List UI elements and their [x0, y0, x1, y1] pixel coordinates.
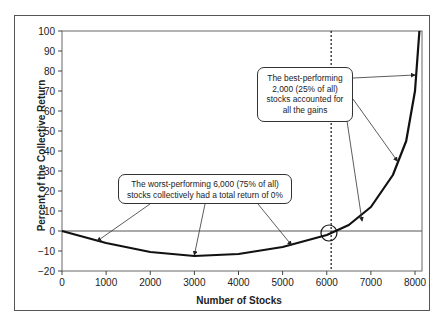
x-tick-label: 8000	[404, 277, 427, 288]
annotation-arrow	[97, 204, 150, 241]
x-tick-label: 5000	[272, 277, 295, 288]
line-chart: −20−100102030405060708090100010002000300…	[0, 0, 447, 329]
x-tick-label: 0	[59, 277, 65, 288]
x-tick-label: 2000	[139, 277, 162, 288]
callout-best-performers: The best-performing 2,000 (25% of all) s…	[257, 67, 353, 122]
callout-worst-performers: The worst-performing 6,000 (75% of all) …	[118, 174, 292, 204]
y-tick-label: −20	[38, 266, 55, 277]
annotation-arrow	[258, 204, 291, 245]
x-tick-label: 3000	[183, 277, 206, 288]
annotation-arrow	[353, 75, 415, 78]
y-tick-label: 100	[38, 26, 55, 37]
y-tick-label: 90	[44, 46, 56, 57]
return-curve	[62, 31, 419, 256]
x-tick-label: 7000	[360, 277, 383, 288]
x-axis-label: Number of Stocks	[62, 295, 416, 306]
x-tick-label: 4000	[227, 277, 250, 288]
x-tick-label: 1000	[95, 277, 118, 288]
annotation-arrow	[353, 99, 397, 161]
x-tick-label: 6000	[316, 277, 339, 288]
annotation-arrow	[194, 204, 205, 255]
y-tick-label: 0	[49, 226, 55, 237]
plot-area	[62, 31, 422, 271]
y-axis-label: Percent of the Collective Return	[36, 61, 47, 251]
annotation-arrow	[347, 121, 362, 221]
